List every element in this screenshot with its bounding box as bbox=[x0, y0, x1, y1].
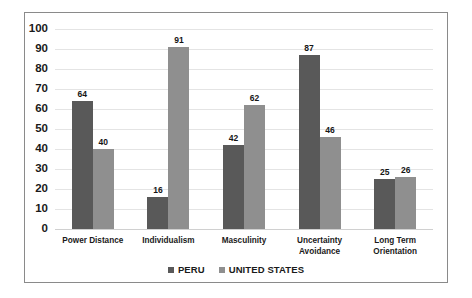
bar-value-label: 64 bbox=[78, 90, 87, 99]
bar[interactable] bbox=[223, 145, 244, 229]
x-axis-category-label: Masculinity bbox=[206, 235, 282, 257]
bar[interactable] bbox=[244, 105, 265, 229]
bar-container: 62 bbox=[244, 29, 265, 229]
plot-area: 1009080706050403020100 64401691426287462… bbox=[55, 29, 433, 229]
bar-group: 8746 bbox=[282, 29, 358, 229]
y-axis-tick-label: 20 bbox=[35, 183, 48, 195]
bar-value-label: 26 bbox=[401, 166, 410, 175]
y-axis-tick-label: 90 bbox=[35, 43, 48, 55]
bar[interactable] bbox=[374, 179, 395, 229]
bar-container: 46 bbox=[320, 29, 341, 229]
y-axis-tick-label: 60 bbox=[35, 103, 48, 115]
chart-frame: 1009080706050403020100 64401691426287462… bbox=[24, 12, 448, 283]
legend-item[interactable]: PERU bbox=[168, 265, 205, 275]
bar-container: 42 bbox=[223, 29, 244, 229]
bar[interactable] bbox=[168, 47, 189, 229]
bar-group: 2526 bbox=[357, 29, 433, 229]
bar-value-label: 42 bbox=[229, 134, 238, 143]
bar-groups: 64401691426287462526 bbox=[55, 29, 433, 229]
gridline bbox=[55, 229, 433, 230]
legend-swatch-icon bbox=[219, 267, 225, 273]
bar-container: 87 bbox=[299, 29, 320, 229]
bar-container: 40 bbox=[93, 29, 114, 229]
bar-value-label: 25 bbox=[380, 168, 389, 177]
bar-container: 16 bbox=[147, 29, 168, 229]
x-axis-category-labels: Power DistanceIndividualismMasculinityUn… bbox=[55, 235, 433, 257]
y-axis-tick-label: 30 bbox=[35, 163, 48, 175]
x-axis-category-label: UncertaintyAvoidance bbox=[282, 235, 358, 257]
bar-group: 4262 bbox=[206, 29, 282, 229]
bar-value-label: 40 bbox=[99, 138, 108, 147]
bar[interactable] bbox=[320, 137, 341, 229]
y-axis-tick-label: 10 bbox=[35, 203, 48, 215]
y-axis-tick-label: 50 bbox=[35, 123, 48, 135]
bar-container: 26 bbox=[395, 29, 416, 229]
legend-swatch-icon bbox=[168, 267, 174, 273]
y-axis-tick-label: 70 bbox=[35, 83, 48, 95]
y-axis-tick-label: 40 bbox=[35, 143, 48, 155]
bar[interactable] bbox=[299, 55, 320, 229]
bar-value-label: 16 bbox=[153, 186, 162, 195]
bar[interactable] bbox=[395, 177, 416, 229]
x-axis-category-label: Power Distance bbox=[55, 235, 131, 257]
bar-value-label: 62 bbox=[250, 94, 259, 103]
x-axis-category-label: Individualism bbox=[131, 235, 207, 257]
bar-value-label: 91 bbox=[174, 36, 183, 45]
y-axis-tick-label: 100 bbox=[29, 23, 48, 35]
legend-item[interactable]: UNITED STATES bbox=[219, 265, 304, 275]
bar-value-label: 87 bbox=[304, 44, 313, 53]
legend-label: PERU bbox=[178, 265, 205, 275]
bar[interactable] bbox=[93, 149, 114, 229]
bar-container: 64 bbox=[72, 29, 93, 229]
legend-label: UNITED STATES bbox=[229, 265, 304, 275]
bar-container: 91 bbox=[168, 29, 189, 229]
bar-container: 25 bbox=[374, 29, 395, 229]
bar[interactable] bbox=[147, 197, 168, 229]
y-axis-tick-label: 80 bbox=[35, 63, 48, 75]
x-axis-category-label: Long TermOrientation bbox=[357, 235, 433, 257]
bar[interactable] bbox=[72, 101, 93, 229]
y-axis-tick-label: 0 bbox=[42, 223, 48, 235]
bar-value-label: 46 bbox=[325, 126, 334, 135]
bar-group: 1691 bbox=[131, 29, 207, 229]
chart-legend: PERUUNITED STATES bbox=[25, 265, 447, 275]
bar-group: 6440 bbox=[55, 29, 131, 229]
